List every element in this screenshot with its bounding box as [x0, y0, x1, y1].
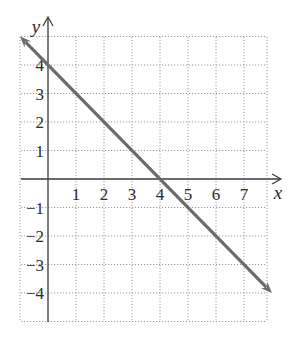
y-tick-label: −3: [26, 256, 44, 275]
data-line: [26, 42, 267, 287]
line-graph: 12345674321−1−2−3−4 x y: [0, 0, 295, 339]
y-tick-label: 2: [36, 113, 45, 132]
data-series: [20, 37, 272, 294]
y-tick-label: 1: [36, 142, 45, 161]
x-tick-label: 6: [212, 185, 221, 204]
x-tick-label: 3: [128, 185, 137, 204]
y-axis-label: y: [30, 16, 41, 37]
y-tick-label: −1: [26, 199, 44, 218]
x-tick-label: 1: [72, 185, 81, 204]
x-tick-label: 7: [240, 185, 249, 204]
y-tick-label: 3: [36, 85, 45, 104]
x-axis-label: x: [273, 182, 283, 203]
y-tick-label: −2: [26, 227, 44, 246]
y-tick-label: −4: [26, 284, 45, 303]
x-tick-label: 2: [100, 185, 109, 204]
x-tick-label: 4: [156, 185, 165, 204]
x-tick-label: 5: [184, 185, 193, 204]
